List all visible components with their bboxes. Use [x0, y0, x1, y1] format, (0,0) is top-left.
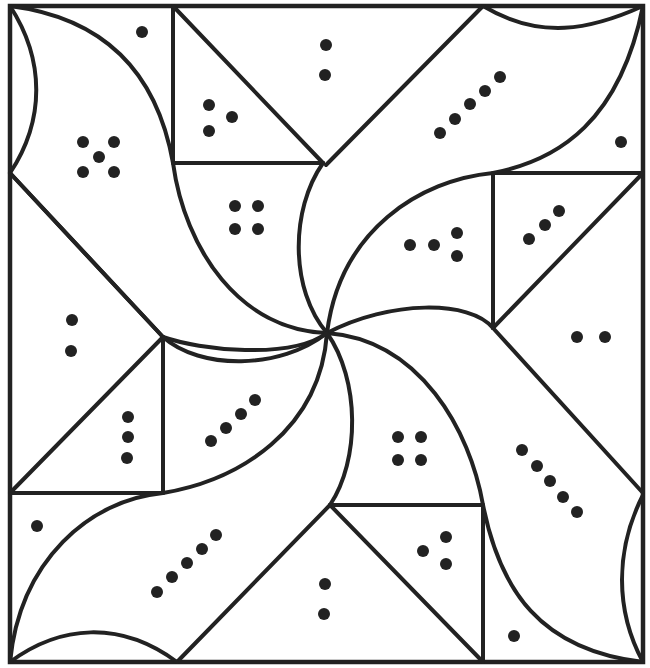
pinwheel-puzzle-figure: [0, 0, 650, 668]
dot-cluster-left-lower-blade-piece: [205, 394, 261, 447]
dot: [599, 331, 611, 343]
dot-cluster-top-small-triangle: [203, 99, 238, 137]
dot: [122, 411, 134, 423]
dot: [479, 85, 491, 97]
dot-cluster-right-upper-blade-piece: [404, 227, 463, 262]
dot: [440, 558, 452, 570]
dot-cluster-top-center-triangle: [319, 39, 332, 81]
dot-cluster-upper-center-piece: [229, 200, 264, 235]
dot: [203, 125, 215, 137]
dot-cluster-right-lower-blade: [516, 444, 583, 518]
dot: [108, 136, 120, 148]
dot-cluster-top-right-blade: [434, 71, 506, 139]
dot-cluster-left-middle-triangle: [65, 314, 78, 357]
dot: [77, 136, 89, 148]
dot: [108, 166, 120, 178]
dot: [516, 444, 528, 456]
dot: [93, 151, 105, 163]
dot-cluster-lower-center-piece: [392, 431, 427, 466]
dot: [252, 223, 264, 235]
dot: [434, 127, 446, 139]
dot: [318, 608, 330, 620]
dot: [531, 460, 543, 472]
dot-cluster-top-left-corner-piece: [136, 26, 148, 38]
dot: [523, 233, 535, 245]
dot: [235, 408, 247, 420]
dot-cluster-bottom-right-corner-piece: [508, 630, 520, 642]
dot-cluster-bottom-left-corner-piece: [31, 520, 43, 532]
curved-blades-group: [10, 6, 643, 662]
dot: [66, 314, 78, 326]
dot: [494, 71, 506, 83]
dot: [451, 250, 463, 262]
dot: [428, 239, 440, 251]
dot: [392, 454, 404, 466]
top-diagonal-line: [173, 6, 323, 163]
bottom-left-blade-outer-curve: [10, 333, 327, 662]
dot: [571, 331, 583, 343]
dot: [226, 111, 238, 123]
dot-cluster-bottom-right-small-triangle: [417, 531, 452, 570]
dot: [508, 630, 520, 642]
dot: [539, 219, 551, 231]
dot: [151, 586, 163, 598]
dot: [319, 69, 331, 81]
dot: [557, 491, 569, 503]
dot-cluster-left-lower-triangle: [121, 411, 134, 464]
dot: [166, 571, 178, 583]
dot: [451, 227, 463, 239]
dot: [122, 431, 134, 443]
dot: [136, 26, 148, 38]
bottom-right-diagonal-line: [330, 505, 483, 662]
dot-cluster-bottom-center-triangle: [318, 578, 331, 620]
top-left-blade-outer-curve: [10, 6, 327, 333]
dot: [220, 422, 232, 434]
dot: [415, 454, 427, 466]
dot: [249, 394, 261, 406]
dot: [77, 166, 89, 178]
dot: [449, 113, 461, 125]
dot: [417, 545, 429, 557]
bottom-blade-inner-curve: [327, 333, 352, 505]
dot: [571, 506, 583, 518]
dot: [553, 205, 565, 217]
dot: [319, 578, 331, 590]
dot-cluster-right-middle-triangle: [571, 331, 611, 343]
bottom-lens-curve: [10, 632, 177, 662]
dot: [196, 543, 208, 555]
dot: [404, 239, 416, 251]
dot: [229, 200, 241, 212]
left-lower-diagonal-line: [10, 337, 163, 493]
right-blade-inner-curve: [327, 308, 493, 333]
dot: [229, 223, 241, 235]
top-left-lens-curve: [10, 6, 36, 173]
dot-cluster-right-upper-triangle: [523, 205, 565, 245]
dot: [203, 99, 215, 111]
dot: [464, 98, 476, 110]
dot: [210, 529, 222, 541]
dot: [440, 531, 452, 543]
dot: [544, 475, 556, 487]
dot: [121, 452, 133, 464]
right-diagonal-line: [493, 173, 643, 328]
dot-cluster-top-right-corner-piece: [615, 136, 627, 148]
top-right-blade-outer-curve: [327, 6, 643, 333]
dot-cluster-bottom-left-blade: [151, 529, 222, 598]
dot-cluster-top-left-blade: [77, 136, 120, 178]
top-right-lens-curve: [483, 6, 643, 28]
dot: [181, 557, 193, 569]
right-lens-curve: [622, 495, 643, 662]
dot: [392, 431, 404, 443]
dot: [615, 136, 627, 148]
dot: [31, 520, 43, 532]
dot: [320, 39, 332, 51]
dot: [252, 200, 264, 212]
dot: [205, 435, 217, 447]
dot: [65, 345, 77, 357]
dot: [415, 431, 427, 443]
top-right-blade-inner-curve: [299, 163, 327, 333]
left-blade-inner-curve: [163, 333, 327, 361]
bottom-left-diagonal-line: [177, 505, 330, 662]
top-right-diagonal-line: [326, 6, 483, 165]
right-lower-diagonal-line: [493, 328, 643, 493]
